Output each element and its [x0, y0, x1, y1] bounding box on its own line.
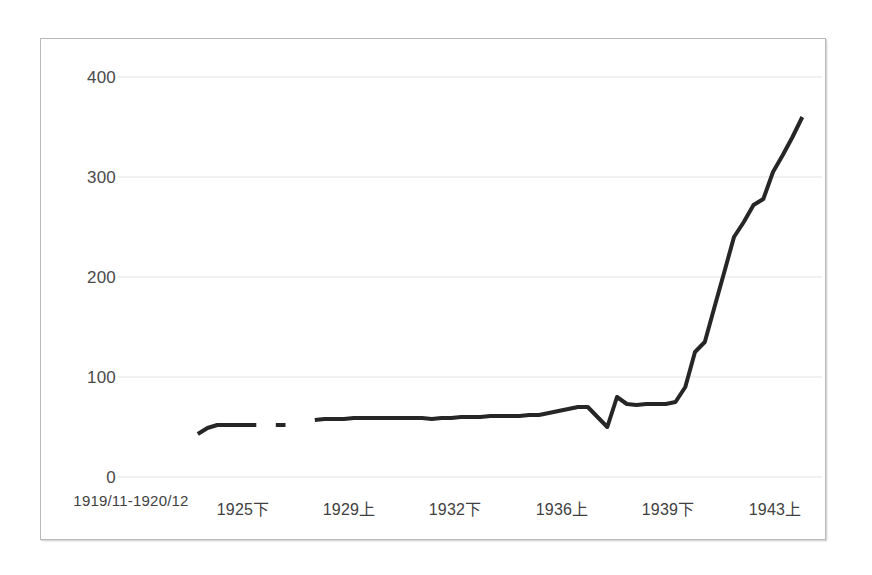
x-tick-label-4: 1936上 — [536, 496, 589, 520]
x-tick-label-3: 1932下 — [429, 496, 482, 520]
y-tick-label-300: 300 — [56, 168, 116, 188]
y-tick-label-100: 100 — [56, 368, 116, 388]
chart-page: 400 300 200 100 0 1919/11-1920/12 1925下 … — [0, 0, 872, 575]
x-tick-label-0: 1919/11-1920/12 — [73, 492, 188, 509]
x-tick-label-5: 1939下 — [642, 496, 695, 520]
chart-frame — [40, 38, 826, 540]
y-tick-label-400: 400 — [56, 68, 116, 88]
x-tick-label-6: 1943上 — [749, 496, 802, 520]
y-tick-label-200: 200 — [56, 268, 116, 288]
x-tick-label-2: 1929上 — [323, 496, 376, 520]
y-tick-label-0: 0 — [56, 468, 116, 488]
x-tick-label-1: 1925下 — [217, 496, 270, 520]
